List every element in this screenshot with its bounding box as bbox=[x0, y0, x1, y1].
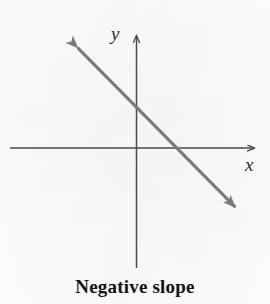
figure-container: y x Negative slope bbox=[0, 0, 270, 304]
figure-caption: Negative slope bbox=[0, 276, 270, 298]
coordinate-plane-graphic bbox=[0, 0, 270, 304]
y-axis-label: y bbox=[111, 24, 119, 43]
negative-slope-line bbox=[78, 48, 236, 207]
x-axis-label: x bbox=[245, 155, 253, 174]
